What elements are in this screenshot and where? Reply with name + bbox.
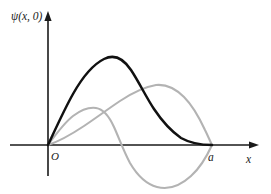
y-axis-label: ψ(x, 0) — [11, 10, 43, 23]
x-axis-arrowhead — [249, 141, 259, 148]
x-endpoint-label: a — [208, 151, 214, 163]
wavefunction-plot: ψ(x, 0) O a x — [0, 0, 271, 194]
y-axis-arrowhead — [44, 11, 51, 21]
labels-group: ψ(x, 0) O a x — [11, 10, 252, 165]
x-axis-label: x — [245, 153, 252, 165]
first-excited-state-curve — [48, 108, 212, 188]
origin-label: O — [51, 150, 59, 162]
gray-curves-group — [48, 85, 212, 188]
plot-canvas: ψ(x, 0) O a x — [0, 0, 271, 194]
